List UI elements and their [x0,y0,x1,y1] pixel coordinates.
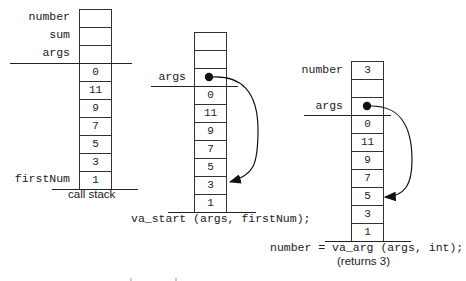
pointer-dot-icon [363,102,371,110]
pointer-arrows [0,0,466,281]
pointer-dot-icon [205,73,213,81]
arrow-icon [213,77,258,182]
arrow-icon [371,106,412,197]
